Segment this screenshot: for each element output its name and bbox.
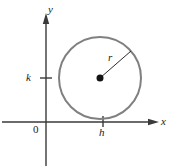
radius-segment [100,51,131,78]
h-tick-label: h [99,127,105,138]
x-axis-arrowhead [148,119,159,125]
y-axis-label: y [48,4,53,15]
k-tick-label: k [26,72,31,83]
radius-label: r [108,52,112,63]
figure-canvas [0,0,175,166]
x-axis-label: x [161,116,166,127]
origin-label: 0 [33,124,39,135]
center-dot [97,75,104,82]
circle-figure: y x 0 k h r [0,0,175,166]
